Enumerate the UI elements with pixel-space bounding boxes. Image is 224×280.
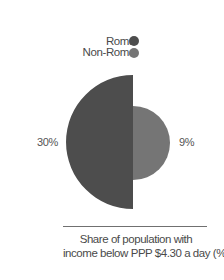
non-roma-semicircle xyxy=(133,106,170,180)
caption-line-2: income below PPP $4.30 a day (%) xyxy=(63,246,209,260)
roma-value-label: 30% xyxy=(37,136,58,148)
roma-semicircle xyxy=(66,75,133,209)
baseline-divider xyxy=(63,226,207,227)
non-roma-value-label: 9% xyxy=(179,136,194,148)
caption-line-1: Share of population with xyxy=(63,232,209,246)
